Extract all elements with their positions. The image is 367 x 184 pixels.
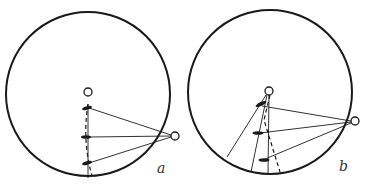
source-point-a <box>171 132 179 140</box>
lens-a-2 <box>81 135 91 139</box>
lens-b-3 <box>259 158 270 162</box>
diagram: a b <box>0 0 367 184</box>
source-point-b <box>351 117 359 125</box>
ray-a-1 <box>89 108 171 135</box>
ray-b-2 <box>260 122 351 133</box>
lens-a-1 <box>82 105 93 111</box>
origin-point-a <box>84 88 92 96</box>
ray-b-3 <box>265 123 351 159</box>
panel-label-a: a <box>157 160 165 176</box>
panel-b <box>188 10 359 174</box>
lens-b-2 <box>253 131 264 135</box>
lens-a-3 <box>82 160 93 166</box>
dashed-curve-a <box>86 104 92 176</box>
panel-a <box>6 12 179 178</box>
origin-point-b <box>265 87 273 95</box>
ray-b-1 <box>262 106 351 121</box>
panel-label-b: b <box>339 158 348 174</box>
